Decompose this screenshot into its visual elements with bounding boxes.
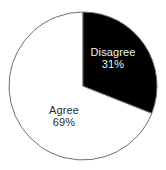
pie-chart-figure: Disagree 31% Agree 69% xyxy=(0,0,166,170)
pie-label-disagree: Disagree 31% xyxy=(82,46,144,70)
pie-label-disagree-name: Disagree xyxy=(82,46,144,58)
pie-label-agree: Agree 69% xyxy=(33,104,95,128)
pie-chart-svg xyxy=(0,0,166,170)
pie-label-agree-name: Agree xyxy=(33,104,95,116)
pie-label-agree-value: 69% xyxy=(33,116,95,128)
pie-label-disagree-value: 31% xyxy=(82,58,144,70)
